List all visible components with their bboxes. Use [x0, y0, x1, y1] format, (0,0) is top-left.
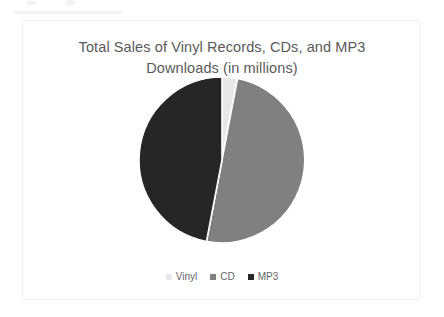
legend-swatch-mp3: [248, 274, 254, 280]
legend-label-mp3: MP3: [258, 271, 279, 283]
legend-item-mp3[interactable]: MP3: [248, 271, 279, 283]
legend-item-cd[interactable]: CD: [210, 271, 234, 283]
legend-swatch-cd: [210, 274, 216, 280]
chart-title-line-1: Total Sales of Vinyl Records, CDs, and M…: [23, 37, 421, 58]
legend-swatch-vinyl: [166, 274, 172, 280]
chart-legend: Vinyl CD MP3: [23, 271, 421, 283]
scan-smudge: [66, 0, 75, 5]
scan-smudge: [14, 11, 122, 14]
pie-slice-group: [139, 77, 305, 243]
legend-label-vinyl: Vinyl: [176, 271, 198, 283]
pie-slice-mp3[interactable]: [139, 77, 222, 242]
chart-card: Total Sales of Vinyl Records, CDs, and M…: [22, 20, 420, 300]
legend-label-cd: CD: [220, 271, 234, 283]
pie-plot-area: [23, 73, 421, 248]
legend-item-vinyl[interactable]: Vinyl: [166, 271, 198, 283]
pie-chart-svg: [23, 73, 421, 248]
scan-smudge: [26, 1, 36, 5]
scan-artifact: [0, 0, 444, 18]
